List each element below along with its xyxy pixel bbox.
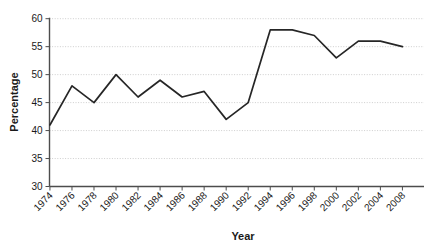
y-tick-label: 35 — [31, 153, 43, 164]
y-tick-label: 40 — [31, 125, 43, 136]
y-tick-label: 50 — [31, 69, 43, 80]
line-chart: 30354045505560 1974197619781980198219841… — [0, 0, 433, 247]
x-axis-title: Year — [231, 230, 255, 242]
chart-canvas: 30354045505560 1974197619781980198219841… — [0, 0, 433, 247]
y-tick-label: 60 — [31, 13, 43, 24]
y-tick-label: 55 — [31, 41, 43, 52]
y-axis-title: Percentage — [8, 72, 20, 131]
y-tick-label: 30 — [31, 181, 43, 192]
y-tick-label: 45 — [31, 97, 43, 108]
